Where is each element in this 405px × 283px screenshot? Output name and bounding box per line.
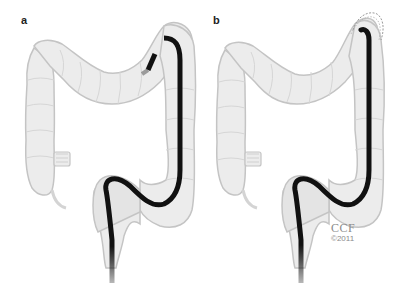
credit-year: ©2011: [331, 235, 355, 243]
panel-a: a: [0, 0, 202, 283]
colon-illustration-a: [0, 0, 202, 283]
panel-label-b: b: [213, 14, 220, 26]
panel-label-a: a: [21, 14, 27, 26]
credit-org: CCF: [331, 222, 355, 234]
panel-b: b CCF ©2011: [203, 0, 405, 283]
ileum-appendix: [52, 152, 70, 208]
copyright-credit: CCF ©2011: [331, 222, 355, 243]
ileum-appendix: [243, 152, 261, 208]
colon-illustration-b: [203, 0, 405, 283]
